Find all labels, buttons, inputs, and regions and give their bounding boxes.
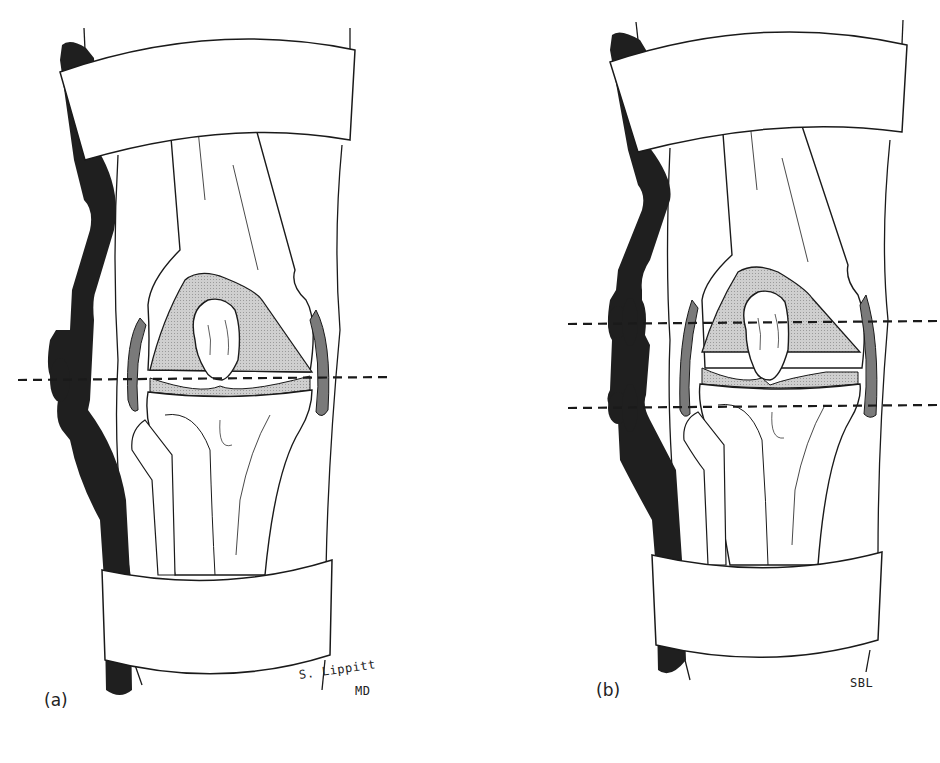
knee-brace-single-hinge-illustration	[0, 0, 470, 763]
calf-cuff	[652, 552, 882, 657]
meniscus-left	[680, 300, 698, 416]
artist-signature-b: SBL	[850, 676, 873, 690]
leg-outline-right	[326, 145, 342, 570]
calf-cuff	[102, 560, 332, 674]
meniscus-left	[128, 318, 147, 411]
artist-credential-a: MD	[355, 684, 370, 698]
knee-brace-polycentric-hinge-illustration	[470, 0, 940, 763]
meniscus-right	[310, 310, 329, 416]
panel-label-b: (b)	[596, 680, 620, 700]
panel-label-a: (a)	[44, 690, 68, 710]
panel-b: (b) SBL	[470, 0, 940, 763]
panel-a: (a) S. Lippitt MD	[0, 0, 470, 763]
leg-outline-right	[878, 140, 890, 555]
